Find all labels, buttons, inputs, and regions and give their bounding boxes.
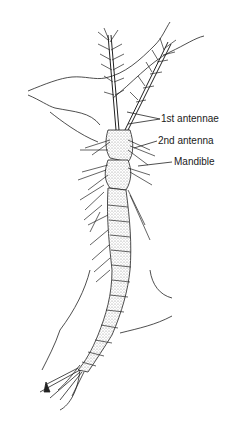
label-mandible: Mandible: [174, 157, 215, 167]
specimen-illustration: [0, 0, 238, 429]
label-first-antennae: 1st antennae: [161, 114, 219, 124]
label-second-antenna: 2nd antenna: [158, 136, 214, 146]
trunk-drawing: [78, 188, 131, 372]
